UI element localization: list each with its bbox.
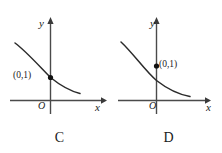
origin-label-c: O: [38, 101, 45, 111]
panel-caption-d: D: [111, 128, 222, 148]
y-axis-label-c: y: [39, 18, 44, 29]
origin-label-d: O: [149, 101, 156, 111]
x-axis-c: [10, 97, 107, 103]
exponential-curve-c: [15, 43, 80, 94]
point-label-c: (0,1): [13, 71, 31, 81]
x-axis-label-c: x: [95, 102, 100, 113]
x-axis-label-d: x: [206, 102, 211, 113]
y-axis-c: [47, 17, 53, 114]
graph-panel-d: y x O (0,1) D: [111, 0, 222, 153]
figure-sheet: y x O (0,1) C y x O (0,1) D: [0, 0, 222, 153]
x-axis-d: [118, 97, 211, 103]
exponential-curve-d: [121, 42, 190, 97]
y-axis-label-d: y: [150, 18, 155, 29]
point-label-d: (0,1): [159, 60, 177, 70]
graph-panel-c: y x O (0,1) C: [0, 0, 111, 153]
panel-caption-c: C: [0, 128, 115, 148]
point-marker-c: [48, 75, 53, 80]
